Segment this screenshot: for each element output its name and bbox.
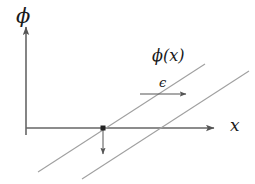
phi-shift-diagram: ϕ x ϕ(x) ϵ xyxy=(0,0,255,184)
x-axis-label: x xyxy=(230,117,240,134)
y-axis-label: ϕ xyxy=(16,6,30,27)
diagram-canvas xyxy=(0,0,255,184)
epsilon-label: ϵ xyxy=(159,76,166,89)
intersection-dot xyxy=(101,126,106,131)
function-label: ϕ(x) xyxy=(152,48,184,64)
function-line-original xyxy=(38,64,205,172)
